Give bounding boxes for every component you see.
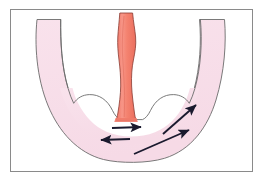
tube-base-blend — [114, 118, 138, 122]
arrow-left-short — [101, 139, 130, 140]
central-red-tube — [116, 13, 136, 120]
anatomical-diagram — [0, 0, 266, 182]
figure-root: Anatomical flow diagram — [0, 0, 266, 182]
arrow-right-short — [112, 127, 141, 128]
